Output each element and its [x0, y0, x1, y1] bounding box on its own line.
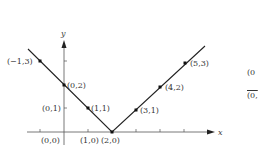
point-label: (2,0) [101, 136, 120, 145]
point-marker [184, 62, 187, 65]
x-axis-label: x [218, 128, 223, 137]
point-marker [39, 60, 42, 63]
x-tick-label: (1,0) [80, 136, 99, 145]
y-axis-label: y [60, 29, 66, 38]
x-tick-label: (0,0) [41, 136, 60, 145]
y-axis-arrow-icon [62, 40, 67, 48]
point-label: (4,2) [165, 83, 184, 92]
point-label: (1,1) [91, 104, 110, 113]
point-label: (−1,3) [7, 57, 33, 66]
partial-text-top: (0 [247, 68, 255, 77]
point-marker [87, 107, 90, 110]
x-axis-arrow-icon [207, 130, 215, 135]
point-label: (3,1) [140, 106, 159, 115]
point-marker [135, 109, 138, 112]
point-marker [159, 86, 162, 89]
y-tick-label: (0,1) [42, 104, 61, 113]
point-marker [111, 131, 114, 134]
partial-text-bottom: (0, [247, 91, 258, 100]
point-marker [63, 84, 66, 87]
function-graph: x y (−1,3) (0,2) (1,1) (2,0) (3,1) (4,2)… [0, 0, 271, 153]
point-label: (5,3) [190, 59, 209, 68]
point-label: (0,2) [67, 81, 86, 90]
